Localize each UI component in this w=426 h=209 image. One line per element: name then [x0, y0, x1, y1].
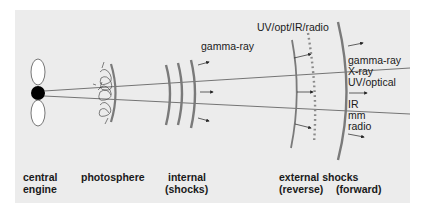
label-central: central [23, 171, 57, 183]
photosphere-icon [93, 62, 112, 124]
internal-arrows [198, 62, 213, 121]
forward-emission-radio: radio [348, 121, 371, 132]
label-forward: (forward) [336, 183, 382, 195]
reverse-shock [291, 40, 297, 148]
internal-emission-label: gamma-ray [201, 41, 254, 52]
label-external-shocks: external shocks [279, 171, 358, 183]
label-reverse: (reverse) [279, 183, 323, 195]
label-photosphere: photosphere [81, 171, 145, 183]
fireball-diagram [0, 0, 426, 209]
reverse-emission-label: UV/opt/IR/radio [257, 22, 329, 33]
contact-discontinuity-dotted [308, 33, 315, 142]
label-shocks: (shocks) [165, 183, 208, 195]
forward-shock [338, 22, 347, 160]
forward-emission-uvopt: UV/optical [348, 77, 396, 88]
central-engine [31, 59, 45, 126]
photosphere-arc [111, 64, 116, 122]
label-internal: internal [168, 171, 206, 183]
label-engine: engine [23, 183, 57, 195]
internal-shocks [166, 60, 195, 128]
